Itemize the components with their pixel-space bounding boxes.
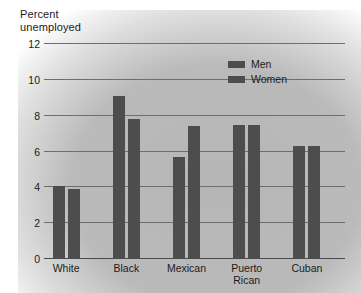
gridline (44, 43, 345, 44)
gridline (44, 79, 345, 80)
bar-women-mexican (188, 126, 200, 259)
bar-women-white (68, 189, 80, 259)
x-axis-label-white: White (36, 262, 96, 274)
plot-area (44, 44, 345, 259)
bar-men-mexican (173, 157, 185, 259)
bar-men-black (113, 96, 125, 259)
legend-swatch-men (228, 61, 245, 68)
x-axis-label-cuban: Cuban (277, 262, 337, 274)
bar-men-puerto-rican (233, 125, 245, 259)
x-axis-label-mexican: Mexican (157, 262, 217, 274)
legend-item-men: Men (228, 58, 287, 71)
y-axis-tick-label: 12 (6, 39, 40, 49)
y-axis-tick-label: 4 (6, 182, 40, 192)
y-axis-tick-label: 8 (6, 111, 40, 121)
legend-swatch-women (228, 76, 245, 83)
bar-women-black (128, 119, 140, 259)
legend-label-women: Women (251, 74, 287, 85)
y-axis-tick-label: 10 (6, 75, 40, 85)
unemployment-bar-chart: Percent unemployed 024681012 WhiteBlackM… (0, 0, 361, 293)
legend-item-women: Women (228, 73, 287, 86)
bar-women-cuban (308, 146, 320, 259)
bar-women-puerto-rican (248, 125, 260, 259)
y-axis-tick-labels: 024681012 (0, 44, 40, 259)
x-axis-label-puerto-rican: Puerto Rican (217, 262, 277, 286)
y-axis-tick-label: 6 (6, 147, 40, 157)
y-axis-tick-label: 2 (6, 218, 40, 228)
y-axis-tick-label: 0 (6, 254, 40, 264)
x-axis-label-black: Black (96, 262, 156, 274)
y-axis-title: Percent unemployed (20, 8, 81, 34)
bar-men-cuban (293, 146, 305, 259)
bar-men-white (53, 186, 65, 259)
gridline (44, 115, 345, 116)
legend-label-men: Men (251, 59, 271, 70)
legend: Men Women (228, 58, 287, 88)
